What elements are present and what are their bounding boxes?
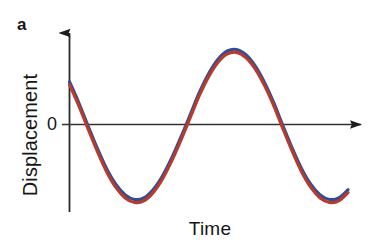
panel-label: a	[17, 16, 26, 33]
x-axis-label: Time	[189, 219, 231, 238]
wave-curve-red	[70, 52, 349, 202]
plot-canvas	[0, 0, 381, 248]
y-axis-label: Displacement	[20, 74, 40, 196]
wave-figure: a 0 Displacement Time	[0, 0, 381, 248]
y-axis-zero-tick-label: 0	[47, 115, 57, 133]
